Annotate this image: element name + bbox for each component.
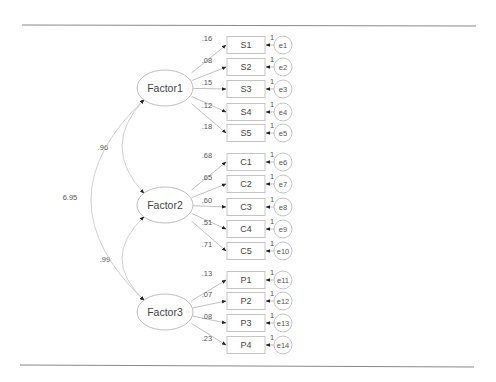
sem-diagram: .96.996.95 .161.081.151.121.181.681.651.… [0,0,496,382]
factor-label: Factor1 [147,82,183,94]
observed-variable-p2[interactable]: P2 [227,293,265,310]
covariance-path [91,100,144,301]
error-term-e7[interactable]: e7 [274,175,292,193]
fixed-weight: 1 [270,311,274,320]
latent-factor2[interactable]: Factor2 [137,187,193,223]
bottom-rule [20,365,474,367]
observed-label: C4 [240,224,252,234]
error-label: e7 [279,180,287,189]
error-label: e14 [277,341,290,350]
loading-value: .16 [202,34,212,43]
error-term-e14[interactable]: e14 [274,336,292,354]
observed-label: P2 [240,296,251,306]
fixed-weight: 1 [270,289,274,298]
loading-value: .13 [202,269,212,278]
fixed-weight: 1 [270,121,274,130]
loading-path [192,206,226,207]
error-term-e4[interactable]: e4 [274,103,292,121]
observed-variable-p4[interactable]: P4 [227,337,265,354]
fixed-weight: 1 [270,77,274,86]
error-label: e12 [277,297,290,306]
error-label: e11 [277,276,289,285]
error-term-e13[interactable]: e13 [274,314,292,332]
fixed-weight: 1 [270,100,274,109]
loading-value: .71 [202,240,212,249]
error-label: e1 [279,41,287,50]
error-term-e8[interactable]: e8 [274,198,292,216]
observed-variable-p3[interactable]: P3 [227,315,265,332]
loading-path [192,88,226,89]
covariance-paths: .96.996.95 [63,100,144,301]
error-term-e2[interactable]: e2 [274,58,292,76]
error-label: e4 [279,108,287,117]
observed-label: C2 [240,179,252,189]
observed-label: P4 [240,340,251,350]
fixed-weight: 1 [270,172,274,181]
loading-value: .18 [202,122,212,131]
observed-variable-c2[interactable]: C2 [227,176,265,193]
error-label: e3 [279,85,287,94]
loading-value: .15 [202,78,212,87]
error-label: e10 [277,247,290,256]
observed-label: S2 [240,62,251,72]
covariance-path [122,100,144,194]
fixed-weight: 1 [270,217,274,226]
loading-value: .12 [202,101,212,110]
observed-variable-s4[interactable]: S4 [227,104,265,121]
nodes: S1e1S2e2S3e3S4e4S5e5Factor1C1e6C2e7C3e8C… [137,36,292,354]
fixed-weight: 1 [270,333,274,342]
fixed-weight: 1 [270,55,274,64]
fixed-weight: 1 [270,150,274,159]
observed-label: S5 [240,128,251,138]
error-label: e8 [279,203,287,212]
error-label: e13 [277,319,290,328]
observed-label: C1 [240,157,252,167]
observed-variable-p1[interactable]: P1 [227,272,265,289]
observed-variable-c5[interactable]: C5 [227,243,265,260]
observed-label: S1 [240,40,251,50]
error-term-e9[interactable]: e9 [274,220,292,238]
covariance-value: .96 [98,143,108,152]
loading-value: .08 [202,312,212,321]
loading-value: .68 [202,151,212,160]
error-term-e1[interactable]: e1 [274,36,292,54]
loading-value: .07 [202,290,212,299]
fixed-weight: 1 [270,195,274,204]
latent-factor1[interactable]: Factor1 [137,70,193,106]
error-term-e6[interactable]: e6 [274,153,292,171]
observed-variable-s2[interactable]: S2 [227,59,265,76]
fixed-weight: 1 [270,239,274,248]
loading-value: .23 [202,334,212,343]
observed-variable-c1[interactable]: C1 [227,154,265,171]
observed-variable-s1[interactable]: S1 [227,37,265,54]
error-label: e5 [279,129,287,138]
observed-variable-s3[interactable]: S3 [227,81,265,98]
loading-value: .08 [202,56,212,65]
error-term-e5[interactable]: e5 [274,124,292,142]
observed-label: C5 [240,246,252,256]
observed-label: P3 [240,318,251,328]
observed-variable-c3[interactable]: C3 [227,199,265,216]
observed-label: C3 [240,202,252,212]
error-term-e10[interactable]: e10 [274,242,292,260]
loading-path [192,301,226,308]
factor-label: Factor2 [147,199,183,211]
covariance-value: 6.95 [63,193,78,202]
error-label: e9 [279,225,287,234]
error-label: e6 [279,158,287,167]
observed-variable-c4[interactable]: C4 [227,221,265,238]
error-term-e12[interactable]: e12 [274,292,292,310]
observed-label: P1 [240,275,251,285]
covariance-value: .99 [100,255,110,264]
observed-label: S3 [240,84,251,94]
covariance-path [122,217,144,301]
error-label: e2 [279,63,287,72]
error-term-e11[interactable]: e11 [274,271,292,289]
loading-value: .51 [202,218,212,227]
fixed-weight: 1 [270,268,274,277]
latent-factor3[interactable]: Factor3 [137,294,193,330]
factor-label: Factor3 [147,306,183,318]
observed-label: S4 [240,107,251,117]
observed-variable-s5[interactable]: S5 [227,125,265,142]
error-term-e3[interactable]: e3 [274,80,292,98]
